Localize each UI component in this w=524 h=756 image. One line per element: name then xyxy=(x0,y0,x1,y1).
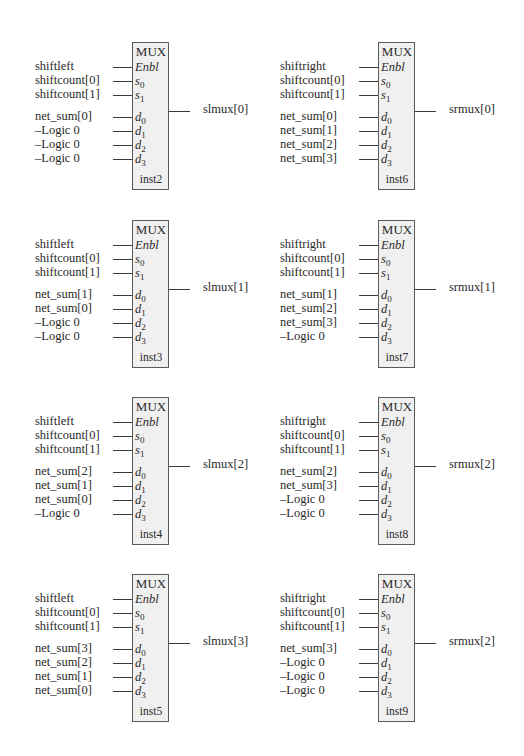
output-signal-label: slmux[1] xyxy=(203,280,248,295)
select0-signal-label: shiftcount[0] xyxy=(280,428,345,442)
input-wire xyxy=(113,422,132,423)
select1-signal-label: shiftcount[1] xyxy=(280,619,345,633)
input-wire xyxy=(113,649,132,650)
select1-pin: s1 xyxy=(135,620,144,638)
output-signal-label: slmux[3] xyxy=(203,634,248,649)
instance-label: inst2 xyxy=(133,173,169,185)
select0-signal-label: shiftcount[0] xyxy=(35,605,100,619)
data1-signal-label: –Logic 0 xyxy=(35,123,80,137)
output-wire xyxy=(169,289,190,290)
mux-title: MUX xyxy=(133,222,169,238)
data3-pin: d3 xyxy=(135,152,146,170)
data2-signal-label: net_sum[3] xyxy=(280,315,337,329)
input-wire xyxy=(113,131,132,132)
data1-signal-label: net_sum[3] xyxy=(280,478,337,492)
data3-signal-label: –Logic 0 xyxy=(280,329,325,343)
input-wire xyxy=(113,67,132,68)
input-wire xyxy=(359,613,378,614)
data3-pin: d3 xyxy=(135,330,146,348)
select1-pin: s1 xyxy=(135,443,144,461)
input-wire xyxy=(359,259,378,260)
input-wire xyxy=(359,486,378,487)
mux-title: MUX xyxy=(133,399,169,415)
input-wire xyxy=(359,159,378,160)
input-wire xyxy=(113,500,132,501)
data3-signal-label: –Logic 0 xyxy=(35,329,80,343)
input-wire xyxy=(113,663,132,664)
output-wire xyxy=(415,111,436,112)
data3-signal-label: –Logic 0 xyxy=(35,151,80,165)
select0-signal-label: shiftcount[0] xyxy=(280,73,345,87)
data3-pin: d3 xyxy=(135,507,146,525)
data1-signal-label: net_sum[1] xyxy=(280,123,337,137)
input-wire xyxy=(359,436,378,437)
data0-signal-label: net_sum[2] xyxy=(35,464,92,478)
input-wire xyxy=(113,436,132,437)
input-wire xyxy=(359,67,378,68)
data3-pin: d3 xyxy=(135,684,146,702)
data3-signal-label: –Logic 0 xyxy=(35,506,80,520)
select1-signal-label: shiftcount[1] xyxy=(35,265,100,279)
output-signal-label: srmux[1] xyxy=(449,280,495,295)
mux-title: MUX xyxy=(379,222,415,238)
select0-signal-label: shiftcount[0] xyxy=(35,73,100,87)
data0-signal-label: net_sum[0] xyxy=(280,109,337,123)
select1-signal-label: shiftcount[1] xyxy=(280,87,345,101)
data2-signal-label: net_sum[2] xyxy=(280,137,337,151)
instance-label: inst3 xyxy=(133,351,169,363)
instance-label: inst7 xyxy=(379,351,415,363)
enable-signal-label: shiftleft xyxy=(35,414,74,428)
mux-box: MUX Enbl s0 s1 d0 d1 d2 d3 inst5 xyxy=(132,574,169,722)
data0-signal-label: net_sum[2] xyxy=(280,464,337,478)
input-wire xyxy=(359,81,378,82)
select1-signal-label: shiftcount[1] xyxy=(35,87,100,101)
output-signal-label: slmux[2] xyxy=(203,457,248,472)
input-wire xyxy=(113,273,132,274)
enable-pin: Enbl xyxy=(135,60,159,74)
instance-label: inst6 xyxy=(379,173,415,185)
data2-signal-label: –Logic 0 xyxy=(35,137,80,151)
input-wire xyxy=(113,323,132,324)
mux-title: MUX xyxy=(133,44,169,60)
input-wire xyxy=(359,500,378,501)
input-wire xyxy=(113,309,132,310)
enable-pin: Enbl xyxy=(135,592,159,606)
enable-pin: Enbl xyxy=(381,592,405,606)
enable-pin: Enbl xyxy=(381,60,405,74)
data0-signal-label: net_sum[1] xyxy=(35,287,92,301)
select0-signal-label: shiftcount[0] xyxy=(280,605,345,619)
select0-signal-label: shiftcount[0] xyxy=(280,251,345,265)
enable-pin: Enbl xyxy=(135,415,159,429)
select1-pin: s1 xyxy=(381,620,390,638)
input-wire xyxy=(113,337,132,338)
select1-pin: s1 xyxy=(381,266,390,284)
data2-signal-label: –Logic 0 xyxy=(35,315,80,329)
output-wire xyxy=(169,466,190,467)
mux-title: MUX xyxy=(379,399,415,415)
enable-pin: Enbl xyxy=(381,415,405,429)
input-wire xyxy=(359,273,378,274)
instance-label: inst9 xyxy=(379,705,415,717)
output-signal-label: srmux[2] xyxy=(449,634,495,649)
instance-label: inst4 xyxy=(133,528,169,540)
input-wire xyxy=(113,691,132,692)
select1-pin: s1 xyxy=(381,443,390,461)
data1-signal-label: net_sum[1] xyxy=(35,478,92,492)
input-wire xyxy=(359,117,378,118)
input-wire xyxy=(113,295,132,296)
input-wire xyxy=(359,337,378,338)
output-wire xyxy=(415,643,436,644)
enable-signal-label: shiftright xyxy=(280,59,326,73)
input-wire xyxy=(359,145,378,146)
input-wire xyxy=(359,691,378,692)
data2-signal-label: –Logic 0 xyxy=(280,669,325,683)
instance-label: inst5 xyxy=(133,705,169,717)
input-wire xyxy=(113,613,132,614)
mux-title: MUX xyxy=(133,576,169,592)
data1-signal-label: net_sum[2] xyxy=(35,655,92,669)
data0-signal-label: net_sum[1] xyxy=(280,287,337,301)
enable-signal-label: shiftright xyxy=(280,414,326,428)
data3-signal-label: net_sum[3] xyxy=(280,151,337,165)
instance-label: inst8 xyxy=(379,528,415,540)
select1-signal-label: shiftcount[1] xyxy=(35,619,100,633)
